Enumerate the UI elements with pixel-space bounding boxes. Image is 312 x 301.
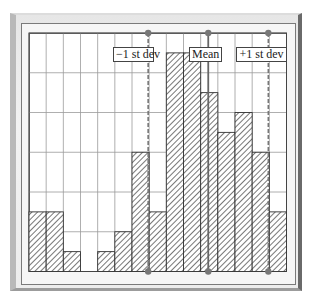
histogram-bar — [252, 152, 269, 271]
histogram-bar — [132, 152, 149, 271]
histogram-bar — [29, 212, 46, 272]
histogram-bar — [269, 212, 286, 272]
histogram-bar — [46, 212, 63, 272]
histogram-bar — [218, 132, 235, 271]
histogram-bars — [29, 53, 287, 272]
histogram-bar — [98, 252, 115, 272]
histogram-chart — [0, 0, 312, 301]
histogram-bar — [184, 53, 201, 272]
histogram-bar — [166, 53, 183, 272]
minus-one-sd-label: −1 st dev — [113, 47, 154, 62]
plus-one-sd-label: +1 st dev — [236, 47, 287, 62]
histogram-bar — [201, 93, 218, 272]
histogram-bar — [149, 212, 166, 272]
histogram-bar — [235, 113, 252, 272]
histogram-bar — [115, 232, 132, 272]
histogram-bar — [63, 252, 80, 272]
mean-label: Mean — [189, 47, 222, 62]
